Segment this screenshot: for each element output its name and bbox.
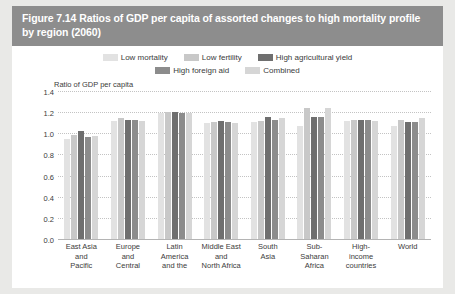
bar: [172, 112, 178, 240]
x-axis-label: SouthAsia: [245, 242, 292, 271]
bar: [139, 121, 145, 240]
bar: [405, 122, 411, 240]
bar: [372, 121, 378, 240]
bar: [118, 118, 124, 240]
bar: [92, 136, 98, 240]
bar: [71, 135, 77, 240]
bar: [225, 122, 231, 240]
bar: [311, 117, 317, 240]
legend-row-1: Low mortality Low fertility High agricul…: [12, 52, 443, 63]
legend-swatch-combined: [245, 67, 260, 74]
legend-label-high-foreign-aid: High foreign aid: [173, 65, 229, 76]
bar: [419, 118, 425, 240]
x-axis-label: High-incomecountries: [338, 242, 385, 271]
legend-label-combined: Combined: [263, 65, 299, 76]
bar: [78, 131, 84, 240]
x-axis-label: EuropeandCentral: [105, 242, 152, 271]
y-axis-tick-label: 1.0: [44, 130, 54, 139]
legend-label-low-mortality: Low mortality: [121, 52, 168, 63]
plot-area: Ratio of GDP per capita 0.00.20.40.60.81…: [12, 80, 443, 286]
bar: [272, 120, 278, 241]
bar-group: [245, 92, 292, 240]
bar: [251, 122, 257, 240]
bar-group: [198, 92, 245, 240]
bar: [304, 108, 310, 240]
figure-title: Figure 7.14 Ratios of GDP per capita of …: [12, 6, 443, 46]
bar-group: [151, 92, 198, 240]
x-axis-line: [58, 239, 431, 240]
x-axis-labels: East AsiaandPacificEuropeandCentralLatin…: [58, 242, 431, 271]
legend-item-combined[interactable]: Combined: [245, 65, 299, 76]
bar: [391, 126, 397, 240]
x-axis-label: World: [384, 242, 431, 271]
bar: [179, 113, 185, 240]
legend-swatch-high-agricultural-yield: [258, 54, 273, 61]
bar: [64, 139, 70, 240]
bar: [351, 120, 357, 241]
y-axis-tick-label: 0.0: [44, 236, 54, 245]
y-axis-tick-label: 0.4: [44, 193, 54, 202]
bar: [165, 112, 171, 240]
y-axis-tick-label: 0.2: [44, 214, 54, 223]
x-axis-label: East AsiaandPacific: [58, 242, 105, 271]
y-axis-tick-label: 0.6: [44, 172, 54, 181]
y-axis-tick-label: 1.2: [44, 109, 54, 118]
bar: [365, 120, 371, 241]
bar: [211, 122, 217, 240]
bar-groups: [58, 92, 431, 240]
bar: [218, 121, 224, 240]
y-axis-title: Ratio of GDP per capita: [54, 80, 133, 89]
legend-item-low-mortality[interactable]: Low mortality: [103, 52, 168, 63]
bar: [279, 118, 285, 240]
bar-group: [58, 92, 105, 240]
bar: [85, 137, 91, 240]
chart-legend: Low mortality Low fertility High agricul…: [12, 46, 443, 80]
bar-group: [105, 92, 152, 240]
legend-label-high-agricultural-yield: High agricultural yield: [276, 52, 352, 63]
legend-item-low-fertility[interactable]: Low fertility: [184, 52, 242, 63]
legend-item-high-foreign-aid[interactable]: High foreign aid: [155, 65, 229, 76]
bar-group: [338, 92, 385, 240]
bar: [344, 121, 350, 240]
bar-group: [384, 92, 431, 240]
legend-swatch-low-fertility: [184, 54, 199, 61]
bar: [412, 122, 418, 240]
bar-group: [291, 92, 338, 240]
bar: [258, 121, 264, 240]
x-axis-label: Sub-SaharanAfrica: [291, 242, 338, 271]
bar: [398, 120, 404, 241]
legend-row-2: High foreign aid Combined: [12, 65, 443, 76]
figure-panel: Figure 7.14 Ratios of GDP per capita of …: [12, 6, 443, 288]
bar: [132, 120, 138, 241]
legend-swatch-low-mortality: [103, 54, 118, 61]
bar: [204, 123, 210, 240]
plot-canvas: 0.00.20.40.60.81.01.21.4: [58, 92, 431, 240]
legend-swatch-high-foreign-aid: [155, 67, 170, 74]
bar: [297, 126, 303, 240]
bar: [318, 117, 324, 240]
bar: [325, 108, 331, 240]
x-axis-label: Middle EastandNorth Africa: [198, 242, 245, 271]
legend-item-high-agricultural-yield[interactable]: High agricultural yield: [258, 52, 352, 63]
legend-label-low-fertility: Low fertility: [202, 52, 242, 63]
x-axis-label: LatinAmericaand the: [151, 242, 198, 271]
bar: [232, 123, 238, 240]
bar: [125, 120, 131, 241]
bar: [158, 113, 164, 240]
y-axis-tick-label: 1.4: [44, 88, 54, 97]
bar: [358, 120, 364, 241]
bar: [186, 113, 192, 240]
bar: [265, 117, 271, 240]
y-axis-tick-label: 0.8: [44, 151, 54, 160]
bar: [111, 121, 117, 240]
